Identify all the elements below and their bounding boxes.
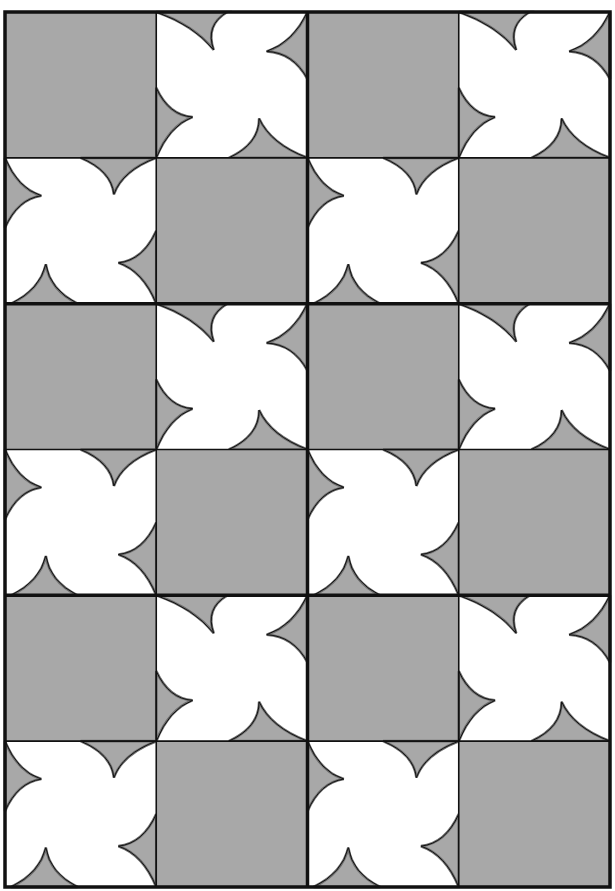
pinwheel-square <box>156 304 307 450</box>
quilt-grid <box>0 0 615 891</box>
gray-square <box>156 158 307 304</box>
gray-square <box>459 158 610 304</box>
pinwheel-square <box>5 741 156 887</box>
gray-square <box>308 304 459 450</box>
gray-square <box>5 595 156 741</box>
pinwheel-square <box>308 158 459 304</box>
gray-square <box>5 304 156 450</box>
pinwheel-square <box>308 741 459 887</box>
pinwheel-square <box>156 595 307 741</box>
gray-square <box>308 12 459 158</box>
pinwheel-square <box>5 450 156 596</box>
pinwheel-square <box>156 12 307 158</box>
gray-square <box>459 741 610 887</box>
pinwheel-square <box>459 304 610 450</box>
pinwheel-square <box>5 158 156 304</box>
pinwheel-square <box>308 450 459 596</box>
gray-square <box>459 450 610 596</box>
gray-square <box>5 12 156 158</box>
gray-square <box>156 741 307 887</box>
gray-square <box>156 450 307 596</box>
pinwheel-square <box>459 12 610 158</box>
pinwheel-square <box>459 595 610 741</box>
gray-square <box>308 595 459 741</box>
